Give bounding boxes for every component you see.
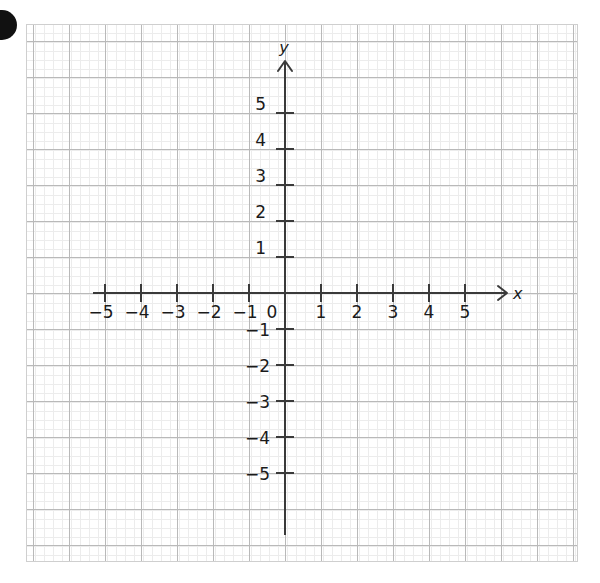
y-axis-label: y <box>278 38 289 57</box>
x-tick-label-4: 4 <box>424 302 435 322</box>
coordinate-plane-figure: −5 −4 −3 −2 −1 1 2 3 4 5 0 5 4 3 2 1 −1 … <box>0 0 600 583</box>
x-axis-label: x <box>512 284 523 303</box>
y-tick-label-3: 3 <box>255 166 266 186</box>
origin-label: 0 <box>267 302 278 322</box>
x-tick-label--1: −1 <box>232 302 257 322</box>
x-tick-label-1: 1 <box>316 302 327 322</box>
x-tick-label--5: −5 <box>88 302 113 322</box>
y-tick-label-1: 1 <box>255 238 266 258</box>
y-tick-label--5: −5 <box>245 464 270 484</box>
y-tick-label--4: −4 <box>245 428 270 448</box>
x-tick-label-3: 3 <box>388 302 399 322</box>
y-tick-label--2: −2 <box>245 356 270 376</box>
y-tick-label-2: 2 <box>255 202 266 222</box>
y-tick-label-4: 4 <box>255 130 266 150</box>
x-tick-label--4: −4 <box>124 302 149 322</box>
x-tick-label--2: −2 <box>196 302 221 322</box>
x-tick-label-5: 5 <box>460 302 471 322</box>
y-tick-label--1: −1 <box>245 320 270 340</box>
x-tick-label--3: −3 <box>160 302 185 322</box>
y-tick-label-5: 5 <box>255 94 266 114</box>
x-tick-label-2: 2 <box>352 302 363 322</box>
y-tick-label--3: −3 <box>245 392 270 412</box>
coordinate-plane-svg: −5 −4 −3 −2 −1 1 2 3 4 5 0 5 4 3 2 1 −1 … <box>0 0 600 583</box>
